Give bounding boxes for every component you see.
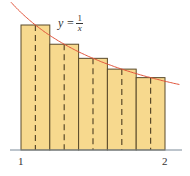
x-tick-label-2: 2 bbox=[162, 155, 168, 167]
riemann-sum-diagram bbox=[0, 0, 190, 176]
function-lhs: y = bbox=[58, 16, 74, 31]
fraction-denominator: x bbox=[78, 24, 82, 33]
function-label: y = 1 x bbox=[58, 14, 83, 33]
x-tick-label-1: 1 bbox=[18, 155, 24, 167]
